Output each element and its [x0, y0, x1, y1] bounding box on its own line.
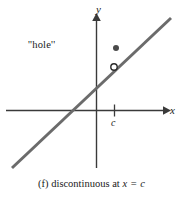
- axis-label-x: x: [170, 105, 175, 116]
- axis-label-y: y: [96, 4, 101, 15]
- caption-prefix: (f) discontinuous at: [38, 178, 122, 189]
- filled-point-marker: [113, 45, 119, 51]
- caption-variable-c: c: [140, 178, 145, 189]
- figure-caption: (f) discontinuous at x = c: [0, 178, 183, 189]
- x-tick-label-c: c: [111, 118, 115, 128]
- figure-discontinuous-at-c: y x c ''hole'' (f) discontinuous at x = …: [0, 0, 183, 198]
- caption-equals-sign: =: [127, 178, 140, 189]
- hole-annotation-label: ''hole'': [28, 40, 55, 51]
- open-circle-hole-marker: [111, 64, 117, 70]
- plot-canvas: [0, 0, 183, 198]
